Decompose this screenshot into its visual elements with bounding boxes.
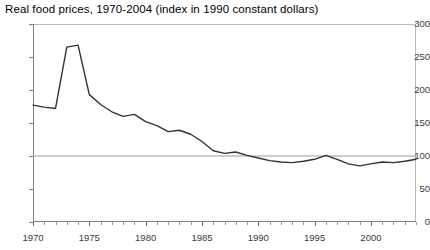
- chart-container: Real food prices, 1970-2004 (index in 19…: [0, 0, 430, 250]
- line-series-real-food-price-index: [33, 45, 416, 166]
- series-plot: [0, 0, 430, 250]
